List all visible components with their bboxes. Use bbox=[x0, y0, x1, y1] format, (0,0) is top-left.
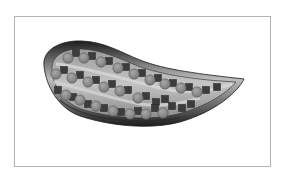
square-component bbox=[179, 105, 186, 112]
circle-component bbox=[79, 53, 89, 63]
square-component bbox=[61, 67, 68, 74]
circle-component bbox=[129, 69, 139, 79]
square-component bbox=[170, 80, 177, 87]
square-component bbox=[214, 84, 221, 91]
circle-component bbox=[133, 93, 143, 103]
circle-component bbox=[141, 109, 151, 119]
circle-component bbox=[145, 75, 155, 85]
square-component bbox=[135, 108, 142, 115]
square-component bbox=[77, 72, 84, 79]
square-component bbox=[186, 84, 193, 91]
square-component bbox=[155, 75, 162, 82]
circle-component bbox=[115, 86, 125, 96]
circle-component bbox=[113, 63, 123, 73]
circle-component bbox=[99, 82, 109, 92]
circle-component bbox=[91, 101, 101, 111]
circle-component bbox=[160, 79, 170, 89]
circle-component bbox=[51, 69, 61, 79]
circle-component bbox=[61, 90, 71, 100]
square-component bbox=[123, 64, 130, 71]
square-component bbox=[143, 93, 150, 100]
circle-component bbox=[158, 108, 168, 118]
square-component bbox=[188, 101, 195, 108]
square-component bbox=[139, 70, 146, 77]
circle-component bbox=[63, 53, 73, 63]
square-component bbox=[203, 87, 210, 94]
square-component bbox=[85, 101, 92, 108]
circle-component bbox=[96, 57, 106, 67]
paisley-tray-illustration bbox=[0, 0, 288, 177]
square-component bbox=[93, 77, 100, 84]
square-component bbox=[152, 105, 159, 112]
square-component bbox=[106, 58, 113, 65]
circle-component bbox=[83, 77, 93, 87]
square-component bbox=[125, 87, 132, 94]
circle-component bbox=[75, 95, 85, 105]
circle-component bbox=[125, 109, 135, 119]
square-component bbox=[101, 105, 108, 112]
circle-component bbox=[67, 73, 77, 83]
circle-component bbox=[108, 106, 118, 116]
square-component bbox=[162, 96, 169, 103]
square-component bbox=[55, 87, 62, 94]
square-component bbox=[109, 81, 116, 88]
square-component bbox=[169, 103, 176, 110]
square-component bbox=[118, 109, 125, 116]
circle-component bbox=[176, 83, 186, 93]
circle-component bbox=[192, 87, 202, 97]
square-component bbox=[73, 50, 80, 57]
square-component bbox=[89, 53, 96, 60]
